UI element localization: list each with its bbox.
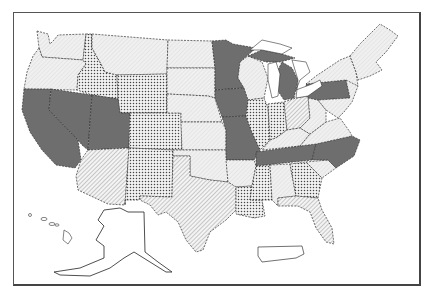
state-ar [226,160,256,187]
state-wa [37,31,86,60]
state-fl [278,196,334,244]
state-ks [181,122,226,150]
lake-superior [250,40,292,54]
state-ny [306,56,358,86]
state-sd [167,68,215,98]
state-new-england [350,24,398,80]
inset-puerto-rico [258,246,304,262]
state-az [76,148,129,205]
state-nd [167,40,215,68]
state-wy [117,74,167,113]
lake-michigan [268,62,280,98]
us-map [0,0,430,298]
state-mt [92,34,168,75]
inset-hawaii [29,214,73,245]
inset-alaska [54,208,172,276]
state-ia [215,88,250,117]
state-co [129,113,182,150]
